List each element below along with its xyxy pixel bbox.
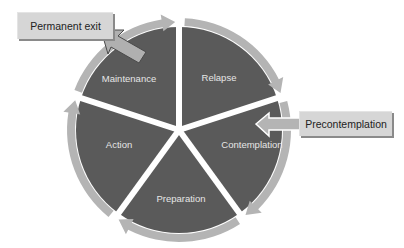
- segment-label-action: Action: [106, 139, 132, 150]
- segment-label-contemplation: Contemplation: [221, 139, 282, 150]
- permanent-exit-label: Permanent exit: [30, 20, 101, 32]
- precontemplation-box: Precontemplation: [299, 111, 392, 136]
- segment-label-relapse: Relapse: [202, 72, 237, 83]
- segment-label-preparation: Preparation: [156, 193, 205, 204]
- segment-label-maintenance: Maintenance: [102, 73, 156, 84]
- precontemplation-label: Precontemplation: [305, 118, 387, 130]
- permanent-exit-box: Permanent exit: [17, 12, 113, 39]
